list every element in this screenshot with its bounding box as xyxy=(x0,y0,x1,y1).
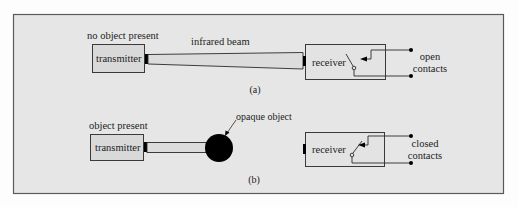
contacts-state-label: closed xyxy=(412,138,440,149)
transmitter-label: transmitter xyxy=(95,142,141,153)
panel-a-caption: (a) xyxy=(249,84,260,96)
receiver-lens-icon xyxy=(303,56,306,66)
receiver-label: receiver xyxy=(312,144,346,155)
contact-terminal-bottom xyxy=(409,74,413,78)
opaque-object-label: opaque object xyxy=(236,111,292,122)
contact-terminal-bottom xyxy=(409,161,413,165)
state-label-no-object: no object present xyxy=(87,30,159,41)
contact-terminal-top xyxy=(409,48,413,52)
photoelectric-sensor-diagram: no object present infrared beam transmit… xyxy=(0,0,518,207)
receiver-lens-icon xyxy=(303,144,306,154)
state-label-object-present: object present xyxy=(89,120,148,131)
receiver-label: receiver xyxy=(312,57,346,68)
opaque-object xyxy=(205,134,233,162)
diagram-figure: no object present infrared beam transmit… xyxy=(0,0,518,207)
contacts-state-label: open xyxy=(420,51,441,62)
transmitter-b: transmitter xyxy=(91,135,148,161)
panel-b-caption: (b) xyxy=(248,174,260,186)
beam-label: infrared beam xyxy=(191,36,250,47)
transmitter-label: transmitter xyxy=(96,53,142,64)
blocked-beam xyxy=(147,143,207,153)
transmitter-a: transmitter xyxy=(93,45,149,73)
figure-frame xyxy=(14,15,504,194)
contacts-label: contacts xyxy=(413,63,447,74)
contacts-label: contacts xyxy=(408,150,442,161)
